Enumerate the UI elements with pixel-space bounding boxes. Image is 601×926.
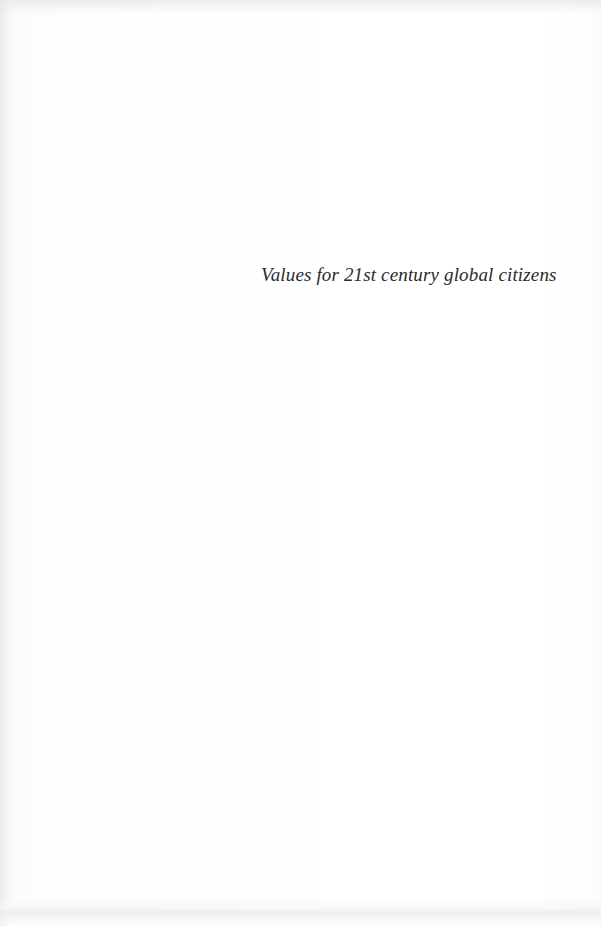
scan-top-noise-band [0, 0, 601, 14]
scanned-page: Values for 21st century global citizens [0, 0, 601, 926]
page-title: Values for 21st century global citizens [261, 262, 523, 288]
scan-bottom-shadow-band [0, 896, 601, 926]
scan-gutter-shading [0, 0, 10, 926]
